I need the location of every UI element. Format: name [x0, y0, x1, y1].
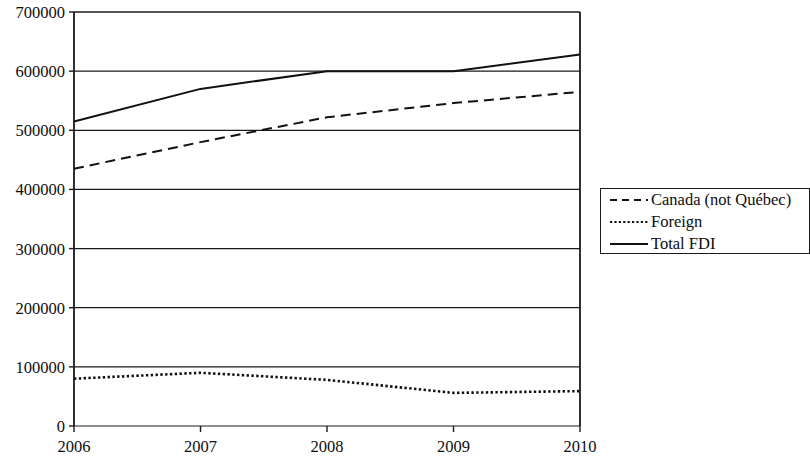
y-axis-tick-label: 200000	[16, 299, 66, 318]
dotted-line-swatch-icon	[609, 216, 649, 228]
series-line-total-fdi	[74, 55, 580, 122]
x-axis-tick-label: 2006	[58, 437, 91, 456]
y-axis-tick-label: 0	[57, 417, 65, 436]
legend-item-total-fdi: Total FDI	[601, 233, 809, 255]
legend-item-canada: Canada (not Québec)	[601, 189, 809, 211]
y-axis-tick-label: 400000	[16, 180, 66, 199]
x-axis-tick-label: 2010	[564, 437, 597, 456]
x-axis-tick-label: 2007	[184, 437, 217, 456]
y-axis-tick-label: 600000	[16, 62, 66, 81]
x-axis-tick-label: 2008	[311, 437, 344, 456]
dashed-line-swatch-icon	[609, 194, 649, 206]
legend-label-foreign: Foreign	[651, 213, 702, 231]
legend-label-total-fdi: Total FDI	[651, 235, 715, 253]
y-axis-tick-label: 700000	[16, 3, 66, 22]
chart-legend: Canada (not Québec) Foreign Total FDI	[600, 188, 810, 254]
solid-line-swatch-icon	[609, 238, 649, 250]
series-line-foreign	[74, 373, 580, 393]
y-axis-tick-label: 500000	[16, 121, 66, 140]
y-axis-tick-label: 300000	[16, 240, 66, 259]
y-axis-tick-label: 100000	[16, 358, 66, 377]
legend-item-foreign: Foreign	[601, 211, 809, 233]
x-axis-tick-label: 2009	[437, 437, 470, 456]
legend-label-canada: Canada (not Québec)	[651, 191, 791, 209]
